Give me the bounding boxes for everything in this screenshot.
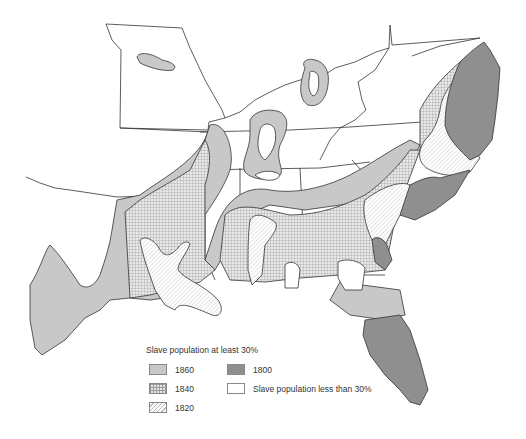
legend-item-1840: 1840 (149, 383, 194, 394)
legend-label-1840: 1840 (175, 384, 194, 394)
legend-label-under-30: Slave population less than 30% (253, 384, 372, 394)
legend-swatch-1800 (227, 364, 245, 375)
map-legend: Slave population at least 30% 1860 1800 … (143, 342, 403, 437)
legend-label-1860: 1860 (175, 365, 194, 375)
legend-swatch-1840 (149, 383, 167, 394)
legend-swatch-1820 (149, 402, 167, 413)
legend-item-under-30: Slave population less than 30% (227, 383, 372, 394)
legend-swatch-1860 (149, 364, 167, 375)
legend-title: Slave population at least 30% (146, 345, 258, 355)
legend-item-1800: 1800 (227, 364, 272, 375)
legend-swatch-under-30 (227, 383, 245, 394)
legend-item-1860: 1860 (149, 364, 194, 375)
legend-item-1820: 1820 (149, 402, 194, 413)
legend-label-1820: 1820 (175, 403, 194, 413)
legend-label-1800: 1800 (253, 365, 272, 375)
